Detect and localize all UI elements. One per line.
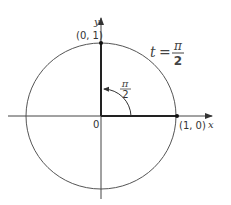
t-label: t [150, 44, 156, 60]
t-equals: = [159, 44, 171, 60]
point-1-0 [175, 114, 179, 118]
t-denominator: 2 [174, 54, 182, 68]
t-numerator: π [173, 39, 183, 53]
angle-denominator: 2 [122, 89, 128, 100]
origin-label: 0 [93, 119, 99, 130]
point-label-1-0: (1, 0) [179, 120, 206, 131]
point-label-0-1: (0, 1) [76, 30, 103, 41]
unit-circle-diagram: y x 0 (0, 1) (1, 0) π 2 t = π 2 [0, 0, 231, 205]
y-axis-label: y [93, 16, 100, 27]
point-0-1 [99, 41, 103, 45]
angle-numerator: π [121, 78, 129, 89]
x-axis-label: x [208, 119, 214, 130]
